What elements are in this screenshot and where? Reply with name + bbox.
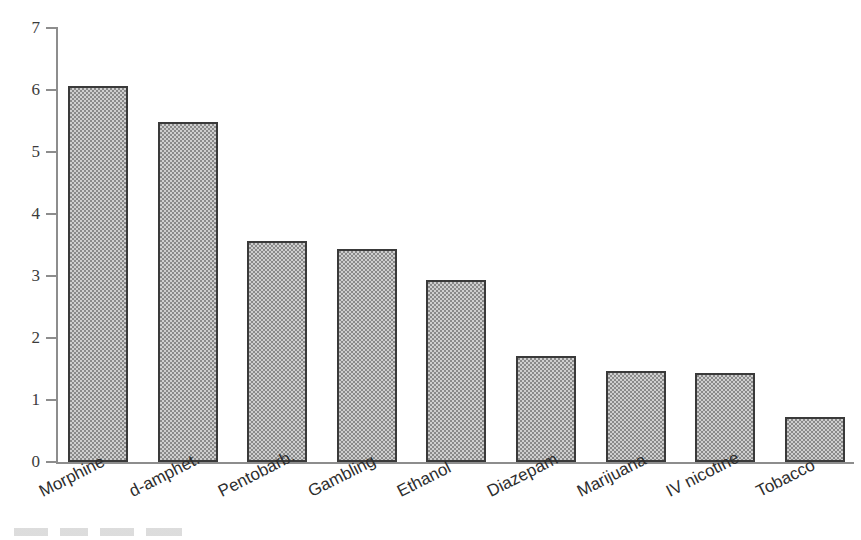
y-axis-tick [46, 275, 58, 277]
y-axis-tick-label: 7 [8, 19, 40, 36]
y-axis-tick-label: 3 [8, 267, 40, 284]
bar-morphine [68, 86, 128, 462]
y-axis-tick [46, 461, 58, 463]
bar-diazepam [516, 356, 576, 462]
y-axis-tick [46, 89, 58, 91]
y-axis-tick [46, 399, 58, 401]
y-axis-tick [46, 337, 58, 339]
y-axis-tick [46, 213, 58, 215]
bar-chart-figure: 01234567 Morphined-amphet.Pentobarb.Gamb… [0, 0, 861, 540]
cropped-footer-text [14, 528, 214, 536]
x-axis-label-ethanol: Ethanol [394, 458, 454, 502]
y-axis-tick-label: 2 [8, 329, 40, 346]
y-axis-tick-label: 4 [8, 205, 40, 222]
y-axis-tick [46, 27, 58, 29]
y-axis-tick-label: 5 [8, 143, 40, 160]
y-axis-tick-label: 6 [8, 81, 40, 98]
y-axis-tick-label: 1 [8, 391, 40, 408]
bar-ethanol [426, 280, 486, 462]
bar-d-amphet [158, 122, 218, 462]
bar-pentobarb [247, 241, 307, 462]
y-axis-tick-label: 0 [8, 453, 40, 470]
y-axis-tick [46, 151, 58, 153]
y-axis-line [56, 28, 58, 463]
bar-marijuana [606, 371, 666, 462]
bar-gambling [337, 249, 397, 462]
plot-area: 01234567 Morphined-amphet.Pentobarb.Gamb… [0, 0, 861, 540]
bar-iv-nicotine [695, 373, 755, 462]
bar-tobacco [785, 417, 845, 462]
